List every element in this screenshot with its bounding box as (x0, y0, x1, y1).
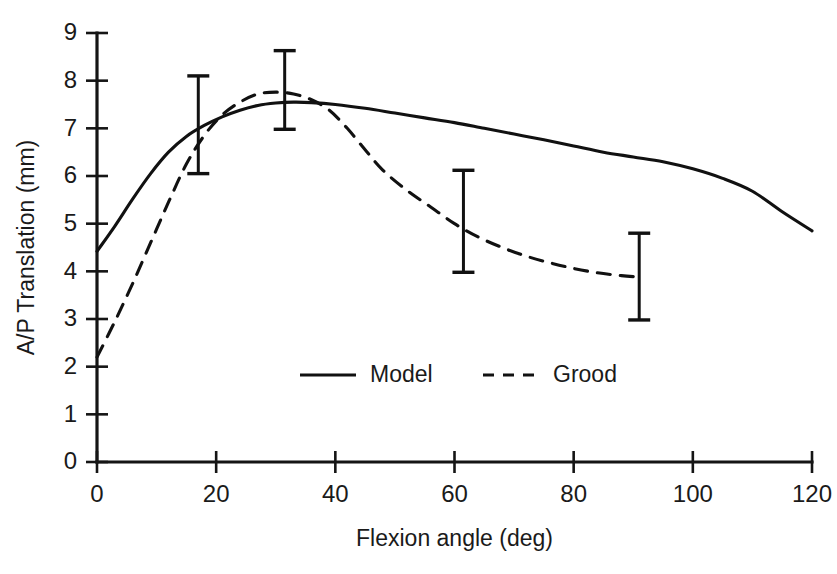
legend-item-model: Model (300, 361, 433, 387)
error-bars-group (187, 51, 650, 320)
y-tick-label: 6 (64, 161, 77, 188)
chart-container: 0123456789 020406080100120 ModelGrood Fl… (0, 0, 837, 574)
y-tick-label: 1 (64, 400, 77, 427)
y-tick-label: 4 (64, 257, 77, 284)
x-tick-label: 80 (560, 480, 587, 507)
x-tick-label: 60 (441, 480, 468, 507)
y-axis-title: A/P Translation (mm) (13, 140, 39, 356)
x-tick-label: 0 (90, 480, 103, 507)
error-bar (452, 170, 474, 272)
legend-label: Model (370, 361, 433, 387)
x-axis-ticks: 020406080100120 (90, 451, 832, 507)
x-tick-label: 20 (203, 480, 230, 507)
error-bar (274, 51, 296, 130)
x-tick-label: 100 (673, 480, 713, 507)
series-grood (97, 92, 639, 357)
legend-label: Grood (553, 361, 617, 387)
y-tick-label: 8 (64, 66, 77, 93)
y-tick-label: 7 (64, 114, 77, 141)
y-tick-label: 5 (64, 209, 77, 236)
x-axis-title: Flexion angle (deg) (356, 525, 553, 551)
chart-legend: ModelGrood (300, 361, 617, 387)
axis-lines (97, 33, 812, 462)
ap-translation-flexion-chart: 0123456789 020406080100120 ModelGrood Fl… (0, 0, 837, 574)
series-model (97, 102, 812, 251)
legend-item-grood: Grood (483, 361, 617, 387)
y-tick-label: 3 (64, 304, 77, 331)
x-tick-label: 120 (792, 480, 832, 507)
y-tick-label: 0 (64, 447, 77, 474)
y-tick-label: 9 (64, 18, 77, 45)
x-tick-label: 40 (322, 480, 349, 507)
y-tick-label: 2 (64, 352, 77, 379)
data-series-group (97, 92, 812, 357)
